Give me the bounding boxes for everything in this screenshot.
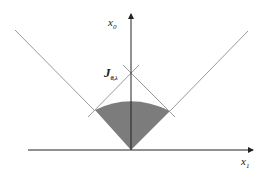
light-cone-diagram: x0 x1 Jθ,λ xyxy=(0,0,265,170)
point-j-label: Jθ,λ xyxy=(103,65,118,81)
right-cone-line xyxy=(170,31,248,111)
left-cone-line xyxy=(15,30,95,111)
shaded-region xyxy=(95,101,170,150)
horizontal-axis-label: x1 xyxy=(240,155,249,170)
vertical-axis-label: x0 xyxy=(107,16,117,31)
